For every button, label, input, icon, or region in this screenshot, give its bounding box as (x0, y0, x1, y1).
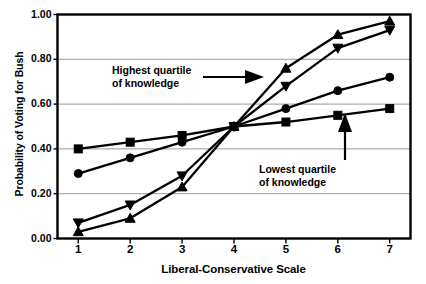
chart-figure: Probability of Voting for Bush Liberal-C… (0, 0, 426, 284)
annotation-highest-arrow-head (245, 70, 264, 84)
series-3-point-4 (281, 63, 291, 72)
series-1-point-0 (74, 170, 82, 178)
series-0-point-6 (386, 105, 394, 113)
x-tick-label-3: 3 (167, 243, 197, 255)
y-tick-label-0: 0.00 (12, 232, 52, 244)
annotation-highest-line2: of knowledge (112, 77, 191, 90)
annotation-highest-line1: Highest quartile (112, 64, 191, 77)
series-3-point-6 (385, 16, 395, 25)
y-tick-label-3: 0.60 (12, 97, 52, 109)
x-tick-label-5: 5 (271, 243, 301, 255)
y-axis-label: Probability of Voting for Bush (13, 9, 25, 239)
y-tick-label-1: 0.20 (12, 187, 52, 199)
annotation-lowest-line2: of knowledge (259, 176, 336, 189)
x-axis-label: Liberal-Conservative Scale (57, 263, 410, 275)
series-1-point-4 (282, 105, 290, 113)
annotation-highest-quartile: Highest quartile of knowledge (112, 64, 191, 91)
series-0-point-4 (282, 118, 290, 126)
series-2-point-2 (177, 172, 187, 181)
x-tick-label-7: 7 (375, 243, 405, 255)
y-tick-label-4: 0.80 (12, 52, 52, 64)
series-3-point-1 (125, 213, 135, 222)
chart-plot-area (0, 0, 426, 284)
series-1-point-6 (386, 73, 394, 81)
series-1-point-5 (334, 87, 342, 95)
x-tick-label-2: 2 (115, 243, 145, 255)
x-tick-label-1: 1 (63, 243, 93, 255)
x-tick-label-6: 6 (323, 243, 353, 255)
series-0-point-0 (74, 145, 82, 153)
series-1-point-1 (126, 154, 134, 162)
y-tick-label-5: 1.00 (12, 8, 52, 20)
series-0-point-5 (334, 111, 342, 119)
x-tick-label-4: 4 (219, 243, 249, 255)
annotation-lowest-line1: Lowest quartile (259, 163, 336, 176)
y-tick-label-2: 0.40 (12, 142, 52, 154)
series-1-point-2 (178, 138, 186, 146)
series-0-point-1 (126, 138, 134, 146)
annotation-lowest-quartile: Lowest quartile of knowledge (259, 163, 336, 190)
